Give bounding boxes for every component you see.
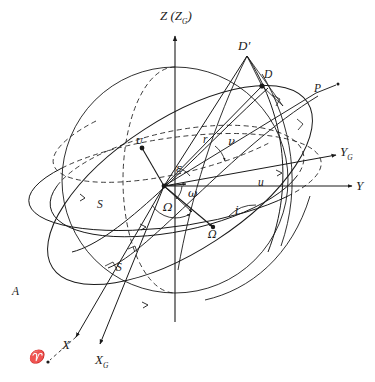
connector-Dprime-D xyxy=(247,56,262,86)
ascending-node-symbol: Ω xyxy=(208,228,217,240)
direction-tick-bottom-arc xyxy=(142,302,148,308)
point-D-marker xyxy=(259,83,264,88)
connector-Dprime-side xyxy=(247,56,283,106)
line-to-left-node xyxy=(142,148,164,186)
xg-axis-line xyxy=(100,186,164,344)
z-axis-label: Z (ZG) xyxy=(160,8,192,26)
arg-perigee-omega-label: ω xyxy=(188,186,197,200)
point-markers-group xyxy=(140,83,265,229)
x-axis-label: X xyxy=(62,337,70,353)
arg-latitude-u-label: u xyxy=(258,176,264,188)
inclination-label: i xyxy=(235,203,239,217)
connector-D-side xyxy=(262,86,283,106)
vernal-equinox-label: ♈ xyxy=(28,349,44,364)
right-angle-tick-right xyxy=(297,119,303,130)
orbital-elements-figure: Z (ZG) Y YG X XG ♈ D′ D P A r ν u i ε ω … xyxy=(0,0,375,382)
ecliptic-back-arc xyxy=(57,125,304,186)
sphere-meridian-dashed xyxy=(123,67,175,293)
vernal-equinox-dot xyxy=(46,360,49,363)
orbit-lower-right-arc xyxy=(205,196,310,300)
hour-circle-secondary xyxy=(262,74,292,246)
sidereal-S2-label: S xyxy=(116,261,122,273)
sidereal-S1-label: S xyxy=(97,198,103,210)
xg-axis-label: XG xyxy=(95,352,108,370)
point-A-label: A xyxy=(12,285,19,297)
raan-label: Ω xyxy=(163,200,173,214)
yg-axis-label: YG xyxy=(340,144,353,162)
point-Dprime-label: D′ xyxy=(238,38,250,54)
true-anomaly-label: ν xyxy=(228,134,235,148)
origin-point xyxy=(162,184,167,189)
left-node-u-label: ᴜ xyxy=(136,133,143,147)
point-P-label: P xyxy=(314,82,321,94)
p-terminal-dot xyxy=(337,83,340,86)
direction-tick-left-arc xyxy=(140,224,146,230)
celestial-sphere-group xyxy=(17,36,352,364)
direction-tick-right-arc xyxy=(276,170,282,176)
point-D-label: D xyxy=(264,68,272,80)
direction-tick-far-left xyxy=(80,194,85,201)
obliquity-epsilon-label: ε xyxy=(176,161,182,175)
radius-r-label: r xyxy=(203,133,207,145)
y-axis-label: Y xyxy=(356,178,363,194)
